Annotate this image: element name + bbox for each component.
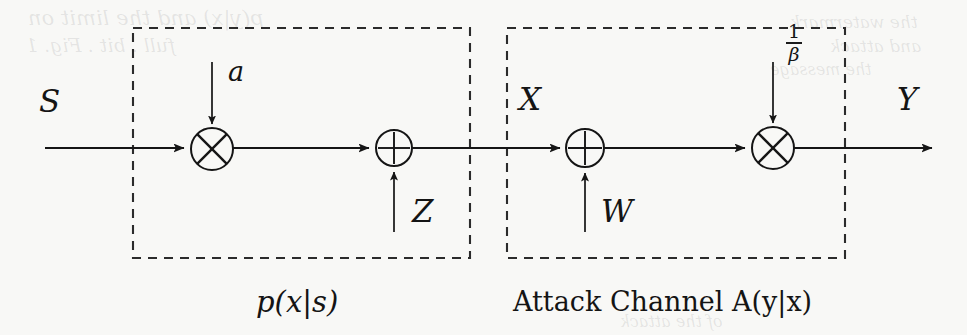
fraction-numerator: 1 [786, 22, 802, 41]
label-intermediate-x: X [519, 81, 541, 117]
label-input-s: S [39, 83, 60, 119]
label-noise-w: W [601, 193, 633, 229]
fraction-denominator: β [786, 45, 802, 64]
caption-embedder: p(x|s) [256, 285, 338, 319]
label-output-y: Y [897, 81, 917, 117]
label-gain-a: a [228, 56, 244, 87]
label-gain-one-over-beta: 1 β [786, 22, 802, 64]
caption-attack-channel: Attack Channel A(y|x) [513, 286, 812, 317]
figure-canvas: p(y|x) and the limit on full . bit . Fig… [0, 0, 967, 335]
label-noise-z: Z [412, 193, 434, 229]
diagram-graphics [0, 0, 967, 335]
